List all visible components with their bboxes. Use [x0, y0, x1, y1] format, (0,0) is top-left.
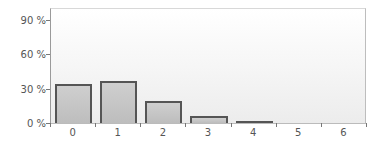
x-tick-label: 5 [295, 127, 301, 138]
x-tick-label: 0 [69, 127, 75, 138]
x-tick [231, 123, 232, 127]
x-axis-line [50, 123, 366, 124]
x-tick [140, 123, 141, 127]
y-tick-label: 60 % [21, 49, 46, 60]
x-tick-label: 3 [205, 127, 211, 138]
x-tick-label: 1 [115, 127, 121, 138]
y-tick [46, 89, 50, 90]
x-tick [366, 123, 367, 127]
y-tick [46, 54, 50, 55]
bar-2 [145, 101, 182, 123]
y-tick-label: 30 % [21, 83, 46, 94]
x-tick-label: 6 [340, 127, 346, 138]
y-tick [46, 20, 50, 21]
bar-3 [190, 116, 227, 123]
y-tick-label: 0 % [27, 118, 46, 129]
x-tick-label: 2 [160, 127, 166, 138]
x-tick [185, 123, 186, 127]
y-tick-label: 90 % [21, 15, 46, 26]
x-tick [276, 123, 277, 127]
plot-area [50, 8, 366, 123]
bar-0 [55, 84, 92, 123]
x-tick-label: 4 [250, 127, 256, 138]
x-tick [321, 123, 322, 127]
x-tick [95, 123, 96, 127]
bar-1 [100, 81, 137, 123]
x-tick [50, 123, 51, 127]
